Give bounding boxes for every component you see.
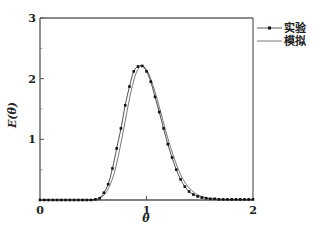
data-point-marker [196,195,199,198]
data-point-marker [145,70,148,73]
data-point-marker [43,199,46,202]
data-point-marker [132,70,135,73]
data-point-marker [205,197,208,200]
data-point-marker [222,198,225,201]
data-point-marker [111,167,114,170]
data-point-marker [230,198,233,201]
legend-item-simulation: 模拟 [257,34,306,48]
data-point-marker [175,168,178,171]
data-point-marker [98,197,101,200]
data-point-marker [81,199,84,202]
data-point-marker [213,197,216,200]
data-point-marker [247,198,250,201]
data-point-marker [107,183,110,186]
data-point-marker [69,199,72,202]
legend-item-experiment: 实验 [257,21,307,35]
data-point-marker [184,185,187,188]
data-point-marker [51,199,54,202]
data-point-marker [154,96,157,99]
data-point-marker [171,156,174,159]
y-tick-label: 3 [28,12,36,25]
data-point-marker [64,199,67,202]
simulation-curve [40,66,253,200]
legend: 实验 模拟 [257,21,307,48]
simulation-series [40,66,253,200]
data-point-marker [149,80,152,83]
data-point-marker [56,199,59,202]
data-point-marker [137,65,140,68]
data-point-marker [167,143,170,146]
data-point-marker [90,199,93,202]
data-point-marker [128,85,131,88]
data-point-marker [239,198,242,201]
y-axis-label: E(θ) [6,102,19,129]
y-tick-label: 2 [28,73,36,86]
x-tick-label: 0 [36,204,44,217]
tick-labels: 012123 [28,12,256,217]
x-tick-label: 2 [249,204,257,217]
plot-frame [40,18,253,200]
y-tick-label: 1 [28,133,36,146]
experiment-series [39,65,255,202]
data-point-marker [162,127,165,130]
data-point-marker [201,196,204,199]
legend-marker-icon [268,27,271,30]
experiment-curve [40,66,253,201]
chart: 012123 θ E(θ) 实验 模拟 [0,0,320,240]
legend-label-experiment: 实验 [284,21,307,35]
legend-label-simulation: 模拟 [284,34,306,48]
axis-ticks [40,18,147,200]
data-point-marker [218,198,221,201]
data-point-marker [192,193,195,196]
data-point-marker [141,65,144,68]
data-point-marker [47,199,50,202]
data-point-marker [179,178,182,181]
data-point-marker [94,198,97,201]
data-point-marker [252,198,255,201]
data-point-marker [209,197,212,200]
data-point-marker [86,199,89,202]
data-point-marker [115,147,118,150]
data-point-marker [60,199,63,202]
data-point-marker [77,199,80,202]
data-point-marker [73,199,76,202]
data-point-marker [226,198,229,201]
data-point-marker [188,190,191,193]
data-point-marker [158,111,161,114]
data-point-marker [124,104,127,107]
data-point-marker [120,127,123,130]
data-point-marker [103,191,106,194]
data-point-marker [243,198,246,201]
data-point-marker [39,199,42,202]
data-point-marker [235,198,238,201]
x-axis-label: θ [142,212,150,225]
